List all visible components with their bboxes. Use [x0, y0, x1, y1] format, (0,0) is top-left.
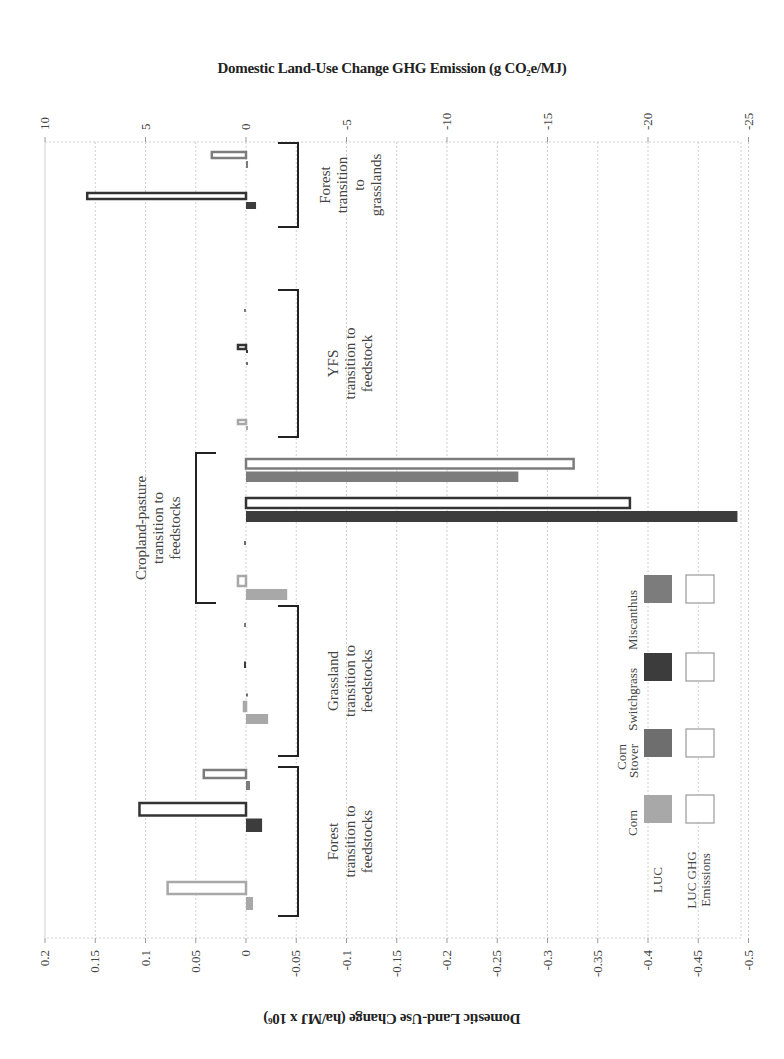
legend-swatch-luc	[644, 795, 672, 823]
top-tick-label: -15	[540, 113, 555, 130]
group-bracket	[278, 290, 298, 437]
bottom-tick-label: 0.2	[37, 950, 52, 966]
legend-label: Miscanthus	[625, 590, 640, 650]
bottom-tick-label: 0	[238, 950, 253, 957]
luc-bar	[246, 161, 248, 168]
top-tick-label: -25	[741, 113, 756, 130]
top-tick-label: 10	[37, 117, 52, 130]
luc-bar	[246, 694, 248, 697]
top-tick-label: 5	[138, 124, 153, 131]
bottom-tick-label: -0.45	[690, 950, 705, 977]
luc-bar	[246, 897, 253, 910]
bottom-tick-label: -0.25	[489, 950, 504, 977]
legend-row-label-ghg: LUC GHGEmissions	[684, 851, 713, 908]
plot-area: 0.20.150.10.050-0.05-0.1-0.15-0.2-0.25-0…	[0, 0, 784, 1059]
luc-bar	[246, 781, 250, 790]
top-tick-label: -20	[640, 113, 655, 130]
ghg-bar	[168, 882, 246, 894]
top-tick-label: -5	[339, 119, 354, 130]
luc-bar	[244, 662, 246, 669]
bottom-tick-label: -0.2	[439, 950, 454, 971]
group-label: YFStransition tofeedstock	[325, 327, 375, 399]
ghg-bar	[238, 345, 246, 349]
luc-bar	[246, 362, 248, 365]
ghg-bar	[238, 420, 246, 424]
legend-swatch-luc	[644, 575, 672, 603]
group-label: Grasslandtransition tofeedstocks	[325, 645, 375, 717]
group-bracket	[278, 143, 298, 227]
bottom-tick-label: -0.4	[640, 950, 655, 971]
ghg-bar	[246, 498, 630, 508]
luc-bar	[246, 589, 287, 600]
group-bracket	[278, 767, 298, 916]
ghg-bar	[244, 702, 246, 711]
bottom-tick-label: -0.15	[389, 950, 404, 977]
luc-ghg-chart: Domestic Land-Use Change GHG Emission (g…	[0, 0, 784, 1059]
legend: CornCornStoverSwitchgrassMiscanthusLUCLU…	[614, 575, 714, 909]
legend-label: CornStover	[614, 743, 641, 778]
bottom-tick-label: -0.3	[540, 950, 555, 971]
ghg-bar	[139, 803, 246, 816]
ghg-bar	[246, 459, 574, 469]
group-bracket	[278, 606, 298, 756]
luc-bar	[246, 426, 248, 430]
bottom-tick-label: -0.35	[590, 950, 605, 977]
luc-bar	[246, 819, 262, 833]
bottom-tick-label: -0.05	[288, 950, 303, 977]
luc-bar	[244, 309, 246, 312]
legend-label: Switchgrass	[625, 668, 640, 731]
group-label: Cropland-pasturetransition tofeedstocks	[133, 476, 183, 580]
legend-label: Corn	[625, 810, 640, 837]
legend-swatch-ghg	[686, 653, 714, 681]
legend-swatch-ghg	[686, 795, 714, 823]
ghg-bar	[212, 152, 246, 158]
luc-bar	[246, 472, 518, 483]
group-label: Foresttransitiontograsslands	[317, 154, 384, 217]
ghg-bar	[87, 193, 246, 199]
group-bracket	[196, 453, 216, 603]
legend-swatch-luc	[644, 729, 672, 757]
ghg-bar	[204, 770, 246, 778]
luc-bar	[244, 623, 246, 627]
bottom-tick-label: 0.05	[188, 950, 203, 973]
luc-bar	[246, 511, 737, 522]
bottom-tick-label: -0.1	[339, 950, 354, 971]
luc-bar	[246, 714, 268, 724]
luc-bar	[244, 541, 246, 545]
legend-swatch-ghg	[686, 729, 714, 757]
legend-row-label-luc: LUC	[650, 867, 665, 893]
luc-bar	[246, 350, 248, 353]
top-tick-label: -10	[439, 113, 454, 130]
bottom-tick-label: 0.15	[87, 950, 102, 973]
legend-swatch-ghg	[686, 575, 714, 603]
top-tick-label: 0	[238, 124, 253, 131]
luc-bar	[246, 202, 256, 209]
bottom-tick-label: -0.5	[741, 950, 756, 971]
ghg-bar	[238, 576, 246, 586]
bottom-tick-label: 0.1	[138, 950, 153, 966]
group-label: Foresttransition tofeedstocks	[325, 805, 375, 877]
legend-swatch-luc	[644, 653, 672, 681]
